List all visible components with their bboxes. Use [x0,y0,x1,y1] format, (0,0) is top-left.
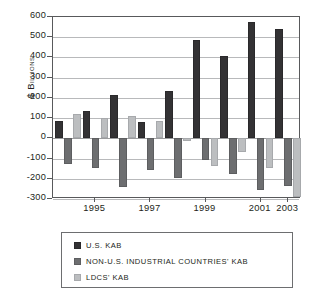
x-tick-label-1995: 1995 [74,202,114,213]
bar-2002-series-1 [284,138,292,186]
bar-1999-series-0 [193,40,201,138]
bar-1998-series-0 [165,91,173,139]
bar-2001-series-1 [257,138,265,190]
series-0-swatch [74,242,81,249]
y-tick-label-0: 0 [2,132,46,141]
bar-1999-series-1 [202,138,210,159]
bar-1997-series-1 [147,138,155,169]
legend-label-1: NON-U.S. INDUSTRIAL COUNTRIES' KAB [86,257,248,266]
legend-item-2: LDCS' KAB [74,273,129,282]
bar-2002-series-2 [293,138,301,197]
bar-1998-series-2 [183,138,191,141]
bar-1994-series-2 [73,114,81,138]
y-tick-label-400: 400 [2,51,46,60]
bar-2000-series-2 [238,138,246,152]
y-tick-label-600: 600 [2,11,46,20]
y-tick-label--200: -200 [2,173,46,182]
bar-2001-series-2 [266,138,274,167]
legend-item-0: U.S. KAB [74,241,122,250]
x-tick-mark-1995 [94,198,95,202]
bar-1997-series-0 [138,122,146,138]
legend-label-2: LDCS' KAB [86,273,129,282]
bar-2000-series-0 [220,56,228,138]
bar-1996-series-2 [128,116,136,138]
y-tick-label-100: 100 [2,112,46,121]
y-tick-label-500: 500 [2,31,46,40]
bar-1997-series-2 [156,121,164,138]
bar-1994-series-0 [55,121,63,138]
bar-1996-series-0 [110,95,118,138]
bar-1996-series-1 [119,138,127,187]
y-tick-label-300: 300 [2,72,46,81]
chart-legend: U.S. KABNON-U.S. INDUSTRIAL COUNTRIES' K… [61,232,293,288]
y-tick-label--100: -100 [2,153,46,162]
x-tick-label-2003: 2003 [267,202,307,213]
bar-1998-series-1 [174,138,182,177]
y-tick-label--300: -300 [2,193,46,202]
chart-figure: $ BILLIONS 6005004003002001000-100-200-3… [0,0,320,298]
bar-1995-series-2 [101,118,109,138]
x-tick-mark-2001 [260,198,261,202]
y-tick-mark--300 [47,198,52,199]
bar-1994-series-1 [64,138,72,163]
x-tick-mark-2003 [287,198,288,202]
gridline--300 [53,199,299,200]
x-tick-mark-1999 [205,198,206,202]
bar-1995-series-1 [92,138,100,167]
bars-layer [53,17,299,197]
legend-label-0: U.S. KAB [86,241,122,250]
y-tick-label-200: 200 [2,92,46,101]
bar-1999-series-2 [211,138,219,165]
bar-2001-series-0 [248,22,256,138]
x-tick-mark-1997 [149,198,150,202]
x-tick-label-1999: 1999 [185,202,225,213]
bar-2002-series-0 [275,29,283,138]
bar-2000-series-1 [229,138,237,173]
bar-1995-series-0 [83,111,91,138]
series-1-swatch [74,258,81,265]
series-2-swatch [74,274,81,281]
x-tick-label-1997: 1997 [129,202,169,213]
legend-item-1: NON-U.S. INDUSTRIAL COUNTRIES' KAB [74,257,248,266]
plot-area [52,16,300,198]
